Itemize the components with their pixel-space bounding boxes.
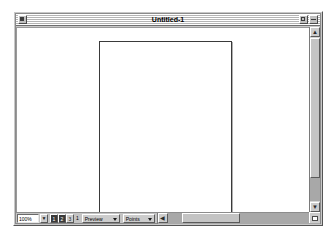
scroll-down-arrow-glyph: ▼ (311, 203, 319, 211)
scroll-left-arrow-icon[interactable]: ◀ (158, 213, 168, 223)
units-dropdown[interactable]: Points (123, 214, 155, 223)
document-canvas[interactable] (16, 27, 309, 212)
window-title: Untitled-1 (16, 15, 320, 24)
preview-mode-label: Preview (85, 215, 103, 223)
document-page[interactable] (99, 41, 232, 212)
page-button-3[interactable]: 3 (66, 214, 74, 223)
resize-grow-box[interactable] (309, 212, 320, 223)
status-bar: 100% ▼ 1 2 3 1 Preview Points ◀ (16, 212, 320, 223)
scroll-left-arrow-glyph: ◀ (159, 214, 167, 222)
page-button-1[interactable]: 1 (50, 214, 58, 223)
page-navigation-group[interactable]: 1 2 3 (50, 214, 74, 223)
page-button-2[interactable]: 2 (58, 214, 66, 223)
scroll-down-arrow-icon[interactable]: ▼ (310, 202, 320, 212)
document-window[interactable]: Untitled-1 ▲ ▼ 100% ▼ 1 (13, 11, 323, 226)
zoom-stepper[interactable]: ▼ (40, 214, 48, 223)
horizontal-scrollbar[interactable]: ◀ ▶ (157, 213, 320, 224)
preview-mode-dropdown[interactable]: Preview (82, 214, 120, 223)
vertical-scroll-track[interactable] (310, 38, 320, 201)
chevron-down-icon (148, 218, 152, 221)
horizontal-scroll-thumb[interactable] (182, 213, 240, 223)
scroll-up-arrow-icon[interactable]: ▲ (310, 27, 320, 37)
scroll-up-arrow-glyph: ▲ (311, 28, 319, 36)
collapse-box-icon[interactable] (309, 15, 318, 24)
units-label: Points (126, 215, 140, 223)
window-title-text: Untitled-1 (148, 16, 188, 23)
zoom-box-icon[interactable] (299, 15, 308, 24)
window-titlebar[interactable]: Untitled-1 (16, 14, 320, 26)
chevron-down-icon (113, 218, 117, 221)
zoom-level-input[interactable]: 100% (17, 214, 39, 223)
vertical-scrollbar[interactable]: ▲ ▼ (309, 27, 320, 212)
vertical-scroll-thumb[interactable] (310, 38, 320, 178)
screen-root: Untitled-1 ▲ ▼ 100% ▼ 1 (0, 0, 336, 240)
page-indicator: 1 (76, 214, 79, 223)
